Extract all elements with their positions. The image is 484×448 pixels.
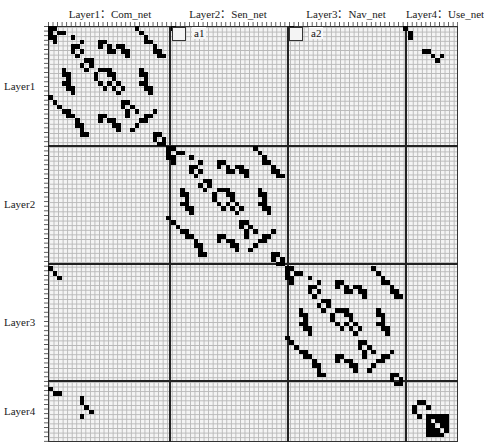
filled-cell	[408, 35, 413, 40]
filled-cell	[344, 308, 349, 313]
filled-cell	[353, 368, 358, 373]
filled-cell	[75, 54, 80, 59]
block-divider-h2	[48, 263, 458, 265]
filled-cell	[203, 188, 208, 193]
column-label-layer1: Layer1：Com_net	[69, 5, 151, 21]
filled-cell	[367, 368, 372, 373]
filled-cell	[221, 206, 226, 211]
filled-cell	[371, 350, 376, 355]
filled-cell	[258, 239, 263, 244]
filled-cell	[84, 68, 89, 73]
filled-cell	[226, 188, 231, 193]
filled-cell	[353, 331, 358, 336]
filled-cell	[362, 294, 367, 299]
filled-cell	[385, 354, 390, 359]
filled-cell	[280, 174, 285, 179]
filled-cell	[103, 86, 108, 91]
filled-cell	[139, 118, 144, 123]
filled-cell	[362, 354, 367, 359]
filled-cell	[125, 114, 130, 119]
inset-box-a1	[172, 27, 186, 41]
column-label-layer4: Layer4：Use_net	[406, 5, 484, 21]
filled-cell	[135, 109, 140, 114]
filled-cell	[262, 239, 267, 244]
filled-cell	[198, 169, 203, 174]
filled-cell	[135, 123, 140, 128]
filled-cell	[308, 276, 313, 281]
inset-label-a2: a2	[309, 27, 323, 39]
row-label-layer2: Layer2	[4, 198, 35, 210]
filled-cell	[153, 109, 158, 114]
filled-cell	[239, 206, 244, 211]
filled-cell	[84, 132, 89, 137]
filled-cell	[148, 91, 153, 96]
filled-cell	[399, 382, 404, 387]
filled-cell	[89, 410, 94, 415]
filled-cell	[399, 294, 404, 299]
filled-cell	[98, 118, 103, 123]
filled-cell	[289, 280, 294, 285]
filled-cell	[71, 35, 76, 40]
filled-cell	[230, 169, 235, 174]
column-label-layer2: Layer2：Sen_net	[189, 5, 267, 21]
filled-cell	[207, 183, 212, 188]
filled-cell	[144, 118, 149, 123]
filled-cell	[235, 248, 240, 253]
row-label-layer4: Layer4	[4, 405, 35, 417]
filled-cell	[194, 174, 199, 179]
filled-cell	[371, 363, 376, 368]
filled-cell	[107, 68, 112, 73]
filled-cell	[244, 174, 249, 179]
filled-cell	[148, 114, 153, 119]
filled-cell	[180, 151, 185, 156]
filled-cell	[267, 234, 272, 239]
filled-cell	[57, 391, 62, 396]
filled-cell	[230, 192, 235, 197]
filled-cell	[381, 359, 386, 364]
filled-cell	[385, 331, 390, 336]
filled-cell	[116, 128, 121, 133]
column-label-layer3: Layer3：Nav_net	[306, 5, 385, 21]
filled-cell	[235, 211, 240, 216]
filled-cell	[358, 326, 363, 331]
filled-cell	[335, 359, 340, 364]
filled-cell	[349, 289, 354, 294]
filled-cell	[248, 248, 253, 253]
filled-cell	[121, 86, 126, 91]
filled-cell	[171, 160, 176, 165]
filled-cell	[253, 243, 258, 248]
row-label-layer3: Layer3	[4, 316, 35, 328]
filled-cell	[317, 280, 322, 285]
inset-box-a2	[289, 27, 303, 41]
filled-cell	[376, 359, 381, 364]
filled-cell	[299, 271, 304, 276]
filled-cell	[217, 239, 222, 244]
filled-cell	[349, 313, 354, 318]
filled-cell	[326, 303, 331, 308]
filled-cell	[335, 285, 340, 290]
filled-cell	[112, 72, 117, 77]
filled-cell	[189, 211, 194, 216]
filled-cell	[198, 160, 203, 165]
filled-cell	[71, 91, 76, 96]
filled-cell	[53, 40, 58, 45]
inset-label-a1: a1	[192, 27, 206, 39]
filled-cell	[203, 252, 208, 257]
filled-cell	[426, 405, 431, 410]
filled-cell	[80, 40, 85, 45]
filled-cell	[98, 44, 103, 49]
filled-cell	[417, 414, 422, 419]
filled-cell	[321, 373, 326, 378]
filled-cell	[80, 414, 85, 419]
filled-cell	[390, 350, 395, 355]
filled-cell	[317, 289, 322, 294]
filled-cell	[308, 331, 313, 336]
filled-cell	[57, 276, 62, 281]
filled-cell	[440, 54, 445, 59]
filled-cell	[162, 54, 167, 59]
filled-cell	[244, 234, 249, 239]
filled-cell	[80, 49, 85, 54]
filled-cell	[217, 165, 222, 170]
filled-cell	[112, 49, 117, 54]
filled-cell	[271, 229, 276, 234]
